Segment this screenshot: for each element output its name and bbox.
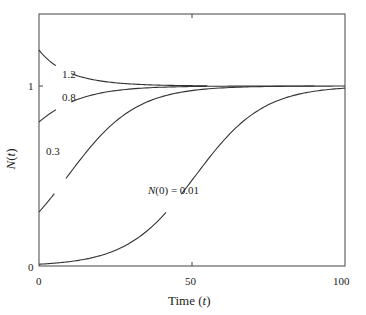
curve-0-8-seg-1 — [71, 86, 314, 102]
x-tick-label-0: 0 — [36, 276, 42, 287]
y-tick-label-0: 0 — [28, 262, 34, 273]
y-axis-label-open: ( — [3, 156, 18, 160]
curve-label-0-01: N(0) = 0.01 — [148, 185, 199, 196]
curve-label-1-2: 1.2 — [62, 69, 76, 80]
curve-label-0-3: 0.3 — [46, 146, 60, 157]
plot-frame — [39, 14, 345, 266]
y-axis-label: N(t) — [3, 144, 19, 174]
x-tick-label-50: 50 — [185, 276, 196, 287]
y-axis-label-arg: t — [3, 153, 18, 157]
curve-0-8-seg-0 — [39, 110, 56, 122]
x-axis-label-suffix: ) — [206, 293, 210, 308]
curve-1-2-seg-1 — [71, 74, 207, 86]
y-tick-label-1: 1 — [28, 81, 34, 92]
x-tick-label-100: 100 — [333, 276, 350, 287]
curve-0-01-seg-1 — [181, 88, 345, 194]
y-axis-label-var: N — [3, 161, 18, 170]
chart-canvas — [0, 0, 366, 315]
curve-0-3-seg-0 — [39, 194, 54, 212]
curve-label-0-01-rest: (0) = 0.01 — [155, 184, 199, 196]
curves-group — [39, 50, 345, 264]
curve-1-2-seg-0 — [39, 50, 56, 66]
curve-label-0-8: 0.8 — [62, 92, 76, 103]
curve-0-01-seg-0 — [39, 212, 166, 264]
x-axis-label-prefix: Time ( — [168, 293, 203, 308]
y-axis-label-close: ) — [3, 149, 18, 153]
x-axis-label: Time (t) — [168, 293, 211, 309]
curve-0-3-seg-1 — [66, 86, 345, 178]
